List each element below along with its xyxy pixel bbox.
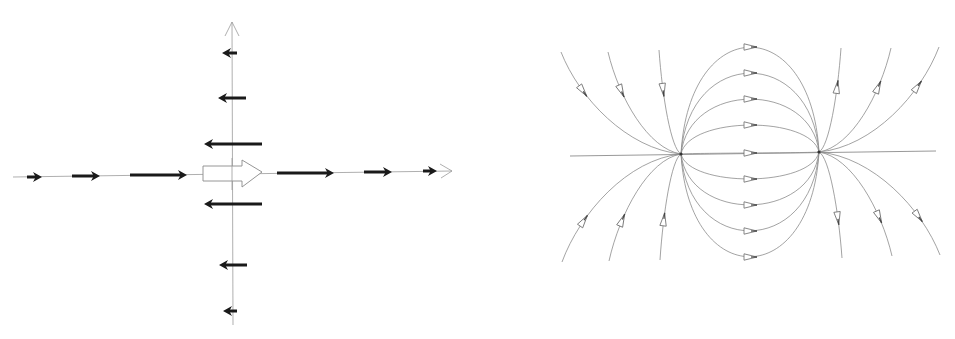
field-direction-arrow-icon — [744, 96, 757, 102]
field-direction-arrow-icon — [911, 79, 924, 93]
left-vector-field-diagram — [0, 0, 480, 339]
field-line-outer-left — [609, 154, 681, 261]
field-direction-arrow-icon — [744, 254, 757, 260]
field-direction-arrow-icon — [660, 213, 668, 227]
field-line-outer-left — [659, 50, 681, 154]
field-direction-arrow-icon — [744, 122, 757, 128]
field-direction-arrow-icon — [873, 210, 884, 224]
right-field-lines-diagram — [480, 0, 955, 339]
left-vector-arrow-icon — [223, 306, 237, 316]
right-vector-arrow-icon — [277, 168, 334, 178]
field-direction-arrow-icon — [744, 202, 757, 208]
field-line-outer-left — [608, 52, 681, 154]
right-vector-arrow-icon — [423, 166, 437, 176]
field-line-outer-right — [819, 152, 892, 256]
field-direction-arrow-icon — [616, 84, 627, 98]
field-line-loop — [681, 152, 819, 231]
left-diagram-canvas — [0, 0, 480, 339]
field-line-outer-right — [819, 152, 842, 258]
field-line-outer-left — [561, 52, 681, 154]
right-diagram-canvas — [480, 0, 955, 339]
field-direction-arrow-icon — [577, 84, 590, 98]
right-pole — [817, 150, 820, 153]
field-direction-arrow-icon — [617, 213, 628, 227]
field-line-outer-left — [562, 154, 681, 262]
field-line-loop — [681, 73, 819, 154]
field-line-outer-right — [819, 48, 841, 152]
field-line-outer-right — [819, 47, 939, 152]
left-vector-arrow-icon — [222, 48, 237, 58]
field-line-outer-right — [819, 48, 891, 152]
field-direction-arrow-icon — [744, 70, 757, 76]
field-direction-arrow-icon — [744, 150, 757, 156]
field-direction-arrow-icon — [833, 80, 841, 94]
right-vector-arrow-icon — [364, 167, 392, 177]
field-line-outer-left — [660, 154, 681, 260]
field-direction-arrow-icon — [744, 228, 757, 234]
field-direction-arrow-icon — [873, 80, 884, 94]
field-direction-arrow-icon — [912, 209, 925, 223]
field-line-loop — [681, 152, 819, 179]
left-vector-arrow-icon — [204, 139, 262, 149]
field-direction-arrow-icon — [834, 211, 842, 225]
right-vector-arrow-icon — [130, 170, 187, 180]
field-direction-arrow-icon — [744, 44, 757, 50]
field-line-loop — [681, 125, 819, 154]
field-direction-arrow-icon — [577, 214, 590, 228]
field-direction-arrow-icon — [744, 176, 757, 182]
right-vector-arrow-icon — [27, 172, 42, 182]
field-direction-arrow-icon — [659, 83, 667, 97]
right-vector-arrow-icon — [72, 171, 100, 181]
left-pole — [679, 152, 682, 155]
field-line-outer-right — [819, 152, 940, 255]
